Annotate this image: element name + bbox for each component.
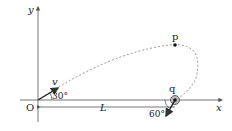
x-axis-label: x	[216, 102, 222, 113]
q-velocity-arrow	[166, 100, 175, 116]
origin-label: O	[26, 102, 34, 113]
angle-30-label: 30°	[52, 91, 68, 101]
q-label: q	[169, 83, 176, 94]
velocity-label: v	[52, 76, 58, 87]
y-axis-label: y	[27, 4, 34, 15]
diagram-canvas: y x O v 30° L p q 60°	[0, 0, 232, 131]
angle-60-label: 60°	[149, 109, 165, 119]
p-dot	[173, 43, 177, 47]
distance-label: L	[99, 102, 107, 113]
diagram: y x O v 30° L p q 60°	[0, 0, 232, 131]
p-label: p	[172, 31, 178, 42]
